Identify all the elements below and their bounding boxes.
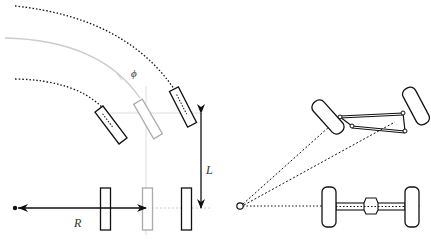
radius-label: R: [74, 216, 81, 231]
left-panel: [5, 6, 212, 235]
front-right-tire: [400, 85, 431, 127]
inner-wheel-convergence-line: [243, 126, 330, 204]
pivot-left-tierod: [350, 124, 354, 128]
outer-turning-arc: [15, 6, 178, 95]
turn-center-dot: [13, 206, 17, 210]
front-outer-wheel: [169, 87, 196, 127]
center-turning-arc: [5, 38, 140, 98]
rear-right-tire: [405, 187, 419, 227]
pivot-right-kingpin: [401, 111, 405, 115]
phi-label: ϕ: [131, 67, 137, 79]
rear-outer-wheel: [182, 188, 192, 230]
turn-center: [237, 203, 243, 209]
front-center-wheel-ghost: [134, 99, 163, 139]
rear-center-wheel-ghost: [143, 188, 153, 230]
steering-geometry-diagram: [0, 0, 431, 242]
right-steering-arm: [403, 113, 405, 131]
rear-left-tire: [322, 187, 336, 227]
rear-inner-wheel: [101, 188, 111, 230]
inner-turning-arc: [15, 79, 103, 108]
wheelbase-label: L: [206, 163, 213, 178]
right-panel: [237, 85, 431, 227]
front-inner-wheel: [95, 106, 127, 144]
outer-wheel-convergence-line: [244, 122, 395, 205]
pivot-right-tierod: [403, 129, 407, 133]
